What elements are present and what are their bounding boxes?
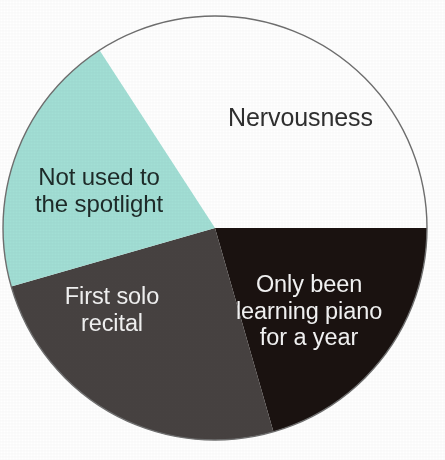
pie-chart-svg bbox=[0, 0, 445, 460]
pie-slices bbox=[3, 16, 427, 440]
pie-chart: Nervousness Only been learning piano for… bbox=[0, 0, 445, 460]
